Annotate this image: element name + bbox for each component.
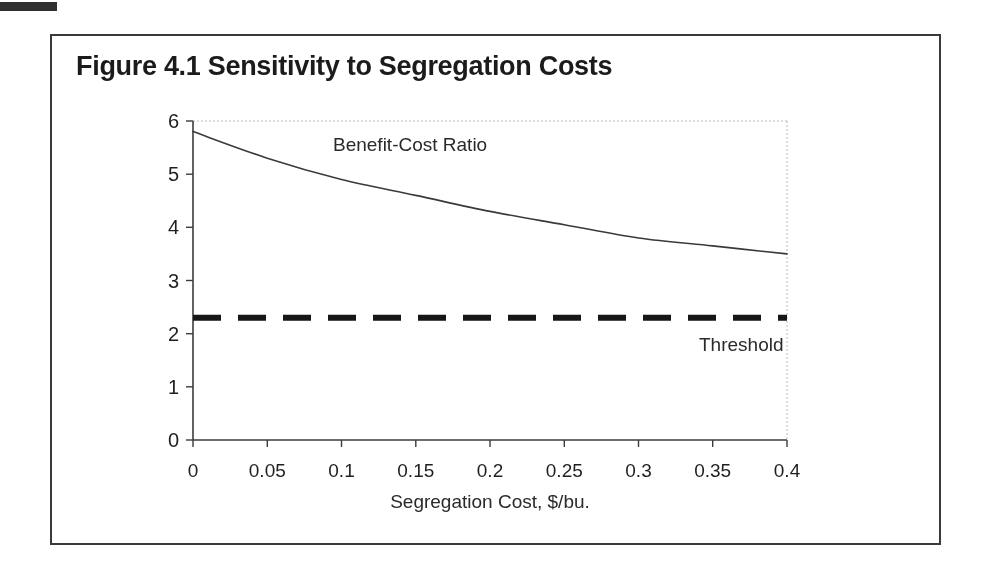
- benefit-cost-curve: [193, 132, 787, 254]
- x-tick-label: 0.15: [397, 460, 434, 481]
- x-tick-label: 0.3: [625, 460, 651, 481]
- y-tick-label: 1: [168, 376, 179, 398]
- page: { "figure": { "title": "Figure 4.1 Sensi…: [0, 0, 994, 580]
- y-tick-label: 3: [168, 270, 179, 292]
- x-tick-label: 0: [188, 460, 199, 481]
- y-tick-label: 6: [168, 110, 179, 132]
- x-tick-label: 0.1: [328, 460, 354, 481]
- y-tick-label: 4: [168, 216, 179, 238]
- series-label-threshold: Threshold: [699, 334, 784, 356]
- series-label-benefit-cost-ratio: Benefit-Cost Ratio: [333, 134, 487, 156]
- x-tick-label: 0.25: [546, 460, 583, 481]
- y-tick-label: 0: [168, 429, 179, 451]
- x-tick-label: 0.4: [774, 460, 801, 481]
- x-tick-label: 0.05: [249, 460, 286, 481]
- x-axis-title: Segregation Cost, $/bu.: [193, 491, 787, 513]
- x-tick-label: 0.35: [694, 460, 731, 481]
- x-tick-label: 0.2: [477, 460, 503, 481]
- y-tick-label: 5: [168, 163, 179, 185]
- y-tick-label: 2: [168, 323, 179, 345]
